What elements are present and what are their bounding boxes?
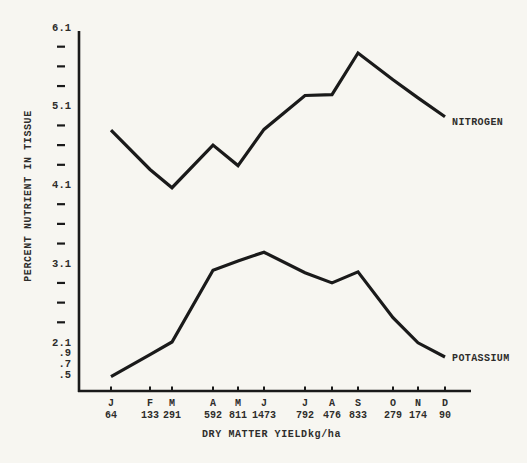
month-label: A [210, 398, 216, 409]
month-label: A [329, 398, 335, 409]
dry-matter-yield-value: 133 [141, 410, 159, 421]
month-label: N [415, 398, 421, 409]
dry-matter-yield-value: 174 [409, 410, 427, 421]
dry-matter-yield-value: 90 [439, 410, 451, 421]
y-axis-title: PERCENT NUTRIENT IN TISSUE [23, 110, 34, 282]
dry-matter-yield-value: 1473 [252, 410, 276, 421]
y-axis-tick-label: 5.1 [52, 100, 71, 112]
nitrogen-line [111, 53, 445, 188]
dry-matter-yield-value: 291 [163, 410, 181, 421]
dry-matter-yield-value: 64 [105, 410, 117, 421]
month-label: O [390, 398, 396, 409]
dry-matter-yield-value: 476 [323, 410, 341, 421]
month-label: M [235, 398, 241, 409]
y-axis-tick-label: 3.1 [52, 258, 71, 270]
dry-matter-yield-value: 833 [349, 410, 367, 421]
y-axis-sub-label: .5 [58, 369, 71, 381]
dry-matter-yield-value: 811 [229, 410, 247, 421]
dry-matter-yield-value: 592 [204, 410, 222, 421]
nutrient-vs-yield-chart: 6.15.14.13.12.1.9.7.5J64F133M291A592M811… [0, 0, 527, 463]
nitrogen-series-label: NITROGEN [452, 117, 503, 128]
y-axis-tick-label: 4.1 [52, 179, 71, 191]
month-label: S [355, 398, 361, 409]
month-label: M [169, 398, 175, 409]
month-label: J [261, 398, 267, 409]
potassium-series-label: POTASSIUM [452, 353, 510, 364]
scanned-chart-page: 6.15.14.13.12.1.9.7.5J64F133M291A592M811… [0, 0, 527, 463]
dry-matter-yield-value: 279 [384, 410, 402, 421]
x-axis-unit-label: kg/ha [308, 429, 341, 440]
dry-matter-yield-value: 792 [296, 410, 314, 421]
potassium-line [111, 252, 445, 376]
month-label: D [442, 398, 448, 409]
x-axis-title: DRY MATTER YIELD [202, 429, 308, 440]
month-label: J [302, 398, 308, 409]
month-label: J [108, 398, 114, 409]
y-axis-tick-label: 6.1 [52, 22, 71, 34]
month-label: F [147, 398, 153, 409]
